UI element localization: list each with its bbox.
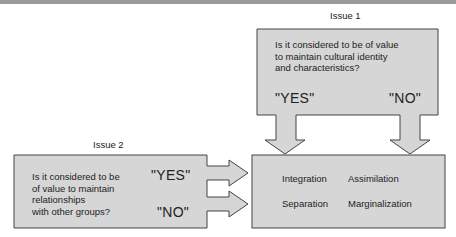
- outcome-assimilation: Assimilation: [348, 173, 399, 185]
- issue2-yes-label: "YES": [151, 168, 190, 182]
- issue1-yes-label: "YES": [275, 91, 314, 105]
- issue2-question-line: relationships: [32, 194, 120, 206]
- issue2-question: Is it considered to be of value to maint…: [32, 171, 120, 217]
- issue1-question: Is it considered to be of value to maint…: [275, 39, 399, 74]
- outcome-box-shape: [252, 155, 445, 228]
- issue2-question-line: Is it considered to be: [32, 171, 120, 183]
- issue1-title: Issue 1: [330, 10, 361, 22]
- issue2-question-line: of value to maintain: [32, 183, 120, 195]
- issue2-question-line: with other groups?: [32, 206, 120, 218]
- issue2-no-label: "NO": [157, 205, 189, 219]
- issue2-title: Issue 2: [93, 139, 124, 151]
- issue1-question-line: to maintain cultural identity: [275, 51, 399, 63]
- issue1-question-line: Is it considered to be of value: [275, 39, 399, 51]
- issue1-question-line: and characteristics?: [275, 62, 399, 74]
- outcome-integration: Integration: [282, 173, 327, 185]
- outcome-marginalization: Marginalization: [348, 198, 412, 210]
- outcome-separation: Separation: [282, 198, 328, 210]
- issue1-no-label: "NO": [389, 91, 421, 105]
